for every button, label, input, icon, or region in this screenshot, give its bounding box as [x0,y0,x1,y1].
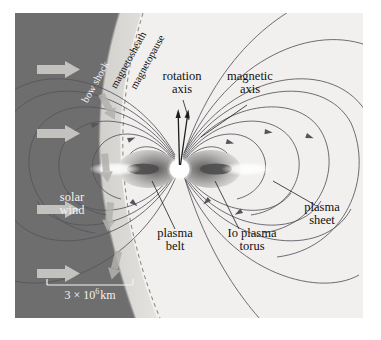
magnetosphere-diagram: solar wind bow shock magnetosheath magne… [15,13,363,318]
io-plasma-torus-label: Io plasma torus [207,227,297,253]
plasma-belt-label: plasma belt [139,227,211,253]
plasma-sheet-label-line2: sheet [287,214,357,227]
plasma-belt-label-line2: belt [139,240,211,253]
io-plasma-torus-label-line2: torus [207,240,297,253]
magnetic-axis-label: magnetic axis [208,70,292,96]
scale-bar-label: 3 × 106km [50,288,130,301]
solar-wind-label: solar wind [39,191,105,217]
scale-bar-power-base: 10 [83,288,95,302]
solar-wind-label-line2: wind [39,204,105,217]
scale-bar-power-exponent: 6 [95,287,99,296]
plasma-sheet-label-line1: plasma [287,201,357,214]
scale-bar-value: 3 [64,288,70,302]
equatorial-glow-left [89,162,141,176]
scale-bar-times: × [73,288,80,302]
plasma-belt-label-line1: plasma [139,227,211,240]
diagram-canvas [15,13,363,318]
figure-container: solar wind bow shock magnetosheath magne… [0,0,381,340]
magnetic-axis-label-line2: axis [208,83,292,96]
solar-wind-label-line1: solar [39,191,105,204]
equatorial-glow-right [221,162,273,176]
plasma-sheet-label: plasma sheet [287,201,357,227]
scale-bar-unit: km [100,288,115,302]
magnetic-axis-label-line1: magnetic [208,70,292,83]
io-plasma-torus-label-line1: Io plasma [207,227,297,240]
